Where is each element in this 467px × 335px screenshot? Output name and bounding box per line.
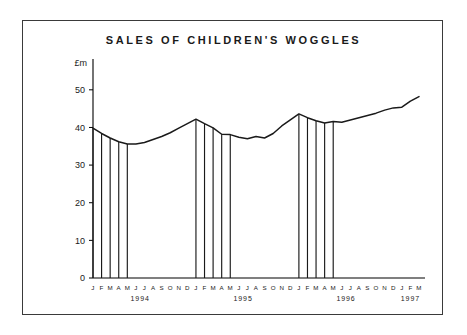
y-tick-label: 0 [80,273,85,283]
x-tick-month-label: O [374,284,379,291]
x-tick-month-label: F [100,284,104,291]
y-tick-label: 40 [75,123,85,133]
x-tick-month-label: N [382,284,387,291]
y-axis: 01020304050 £m [74,58,93,283]
y-tick-label: 10 [75,236,85,246]
x-tick-month-label: M [228,284,233,291]
x-tick-month-label: J [91,284,94,291]
x-axis-year-label: 1997 [401,295,420,302]
x-tick-month-label: O [168,284,173,291]
x-tick-month-label: A [322,284,327,291]
x-tick-month-label: J [340,284,343,291]
x-tick-month-label: J [349,284,352,291]
x-tick-month-label: J [297,284,300,291]
x-tick-month-label: M [107,284,112,291]
x-tick-month-label: A [254,284,259,291]
x-tick-month-label: M [313,284,318,291]
x-tick-month-label: A [117,284,122,291]
x-tick-month-label: S [365,284,369,291]
x-tick-month-label: J [134,284,137,291]
x-axis-month-labels: JFMAMJJASONDJFMAMJJASONDJFMAMJJASONDJFM [91,284,421,291]
x-tick-month-label: S [262,284,266,291]
y-tick-label: 20 [75,198,85,208]
x-tick-month-label: M [210,284,215,291]
x-tick-month-label: A [357,284,362,291]
y-tick-label: 50 [75,85,85,95]
sales-line-series [93,97,419,144]
y-tick-label: 30 [75,160,85,170]
x-tick-month-label: N [279,284,284,291]
x-tick-month-label: J [143,284,146,291]
x-tick-month-label: J [246,284,249,291]
y-axis-ticks: 01020304050 [75,85,93,283]
x-tick-month-label: O [271,284,276,291]
x-tick-month-label: A [151,284,156,291]
x-tick-month-label: J [237,284,240,291]
x-tick-month-label: D [391,284,396,291]
x-tick-month-label: F [203,284,207,291]
x-tick-month-label: J [400,284,403,291]
x-tick-month-label: S [159,284,163,291]
x-axis-year-labels: 1994199519961997 [131,295,420,302]
x-tick-month-label: A [220,284,225,291]
x-tick-month-label: D [288,284,293,291]
x-tick-month-label: N [176,284,181,291]
x-axis-year-label: 1994 [131,295,150,302]
chart-plot-area: 01020304050 £m JFMAMJJASONDJFMAMJJASONDJ… [23,21,444,316]
y-axis-unit-label: £m [74,58,87,68]
x-axis-year-label: 1996 [336,295,355,302]
x-tick-month-label: D [185,284,190,291]
x-axis-year-label: 1995 [234,295,253,302]
x-tick-month-label: F [305,284,309,291]
x-tick-month-label: M [125,284,130,291]
chart-page: SALES OF CHILDREN'S WOGGLES 01020304050 … [0,0,467,335]
x-tick-month-label: F [408,284,412,291]
x-tick-month-label: M [331,284,336,291]
x-tick-month-label: J [194,284,197,291]
x-tick-month-label: M [416,284,421,291]
shaded-region-drop-lines [93,114,333,278]
x-axis: JFMAMJJASONDJFMAMJJASONDJFMAMJJASONDJFM … [91,278,425,302]
chart-frame: SALES OF CHILDREN'S WOGGLES 01020304050 … [22,20,443,315]
